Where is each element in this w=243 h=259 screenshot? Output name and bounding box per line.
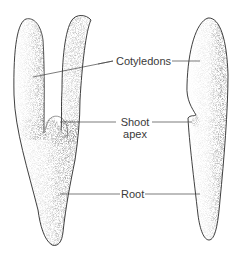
label-root: Root bbox=[120, 188, 145, 200]
label-shoot-apex-line1: Shoot bbox=[119, 116, 151, 128]
label-shoot-apex-line2: apex bbox=[119, 128, 151, 140]
right-embryo bbox=[180, 0, 243, 259]
left-embryo bbox=[0, 0, 120, 259]
label-shoot-apex: Shoot apex bbox=[118, 116, 152, 140]
label-cotyledons: Cotyledons bbox=[115, 55, 172, 67]
cotyledons-leader-left-2 bbox=[98, 61, 113, 64]
